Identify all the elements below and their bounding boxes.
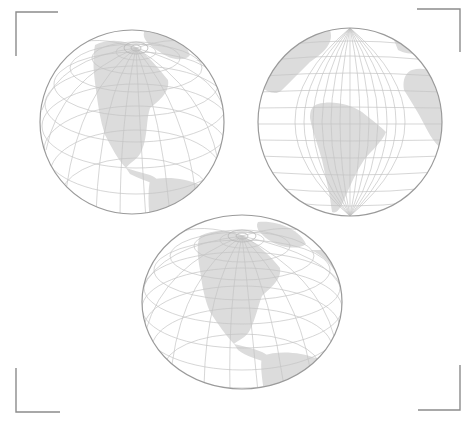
- figure-canvas: [0, 0, 470, 423]
- globe-oblate-north-america: [142, 215, 342, 402]
- land-south-america: [149, 178, 213, 220]
- crop-mark-top-left: [16, 12, 58, 56]
- land-south-america: [261, 352, 331, 392]
- crop-mark-top-right: [417, 9, 460, 52]
- crop-mark-bottom-left: [16, 368, 60, 412]
- crop-mark-bottom-right: [418, 365, 460, 410]
